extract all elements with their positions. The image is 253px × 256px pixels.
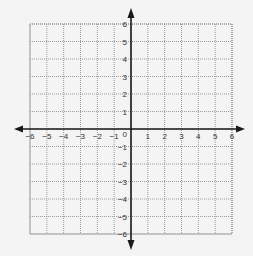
y-tick-label: 3: [123, 73, 128, 82]
x-tick-label: 1: [146, 132, 151, 141]
x-axis-right-arrow-icon: [236, 126, 245, 133]
y-tick-label: 1: [123, 108, 128, 117]
y-tick-label: 6: [123, 20, 128, 29]
x-tick-label: −4: [59, 132, 69, 141]
x-tick-label: −1: [110, 132, 120, 141]
y-tick-label: −1: [118, 143, 128, 152]
origin-label: 0: [123, 130, 128, 139]
y-tick-label: −4: [118, 195, 128, 204]
y-axis-up-arrow-icon: [128, 8, 135, 18]
axes: [14, 8, 245, 250]
x-tick-label: 5: [213, 132, 218, 141]
x-tick-label: −6: [25, 132, 35, 141]
y-tick-label: 2: [123, 90, 128, 99]
x-tick-label: −3: [76, 132, 86, 141]
x-tick-label: 4: [196, 132, 201, 141]
coordinate-plane: −6−5−4−3−2−1123456654321−1−2−3−4−5−60: [0, 0, 253, 256]
y-tick-label: 4: [123, 55, 128, 64]
x-tick-label: 3: [179, 132, 184, 141]
x-tick-label: 6: [230, 132, 235, 141]
x-axis-left-arrow-icon: [14, 126, 23, 133]
y-tick-label: −5: [118, 213, 128, 222]
y-tick-label: −2: [118, 160, 128, 169]
x-tick-label: −2: [93, 132, 103, 141]
y-tick-label: −3: [118, 178, 128, 187]
y-axis-down-arrow-icon: [128, 240, 135, 250]
x-tick-label: −5: [42, 132, 52, 141]
y-tick-label: 5: [123, 38, 128, 47]
x-tick-label: 2: [162, 132, 167, 141]
y-tick-label: −6: [118, 230, 128, 239]
